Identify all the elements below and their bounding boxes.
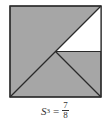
caption-equals: = — [53, 105, 59, 117]
caption-fraction: 7 8 — [62, 101, 69, 120]
figure-caption: S3 = 7 8 — [0, 98, 110, 123]
fraction-denominator: 8 — [63, 111, 68, 120]
geometric-square-diagram — [0, 0, 110, 100]
caption-subscript: 3 — [46, 107, 50, 115]
fraction-numerator: 7 — [63, 101, 68, 110]
